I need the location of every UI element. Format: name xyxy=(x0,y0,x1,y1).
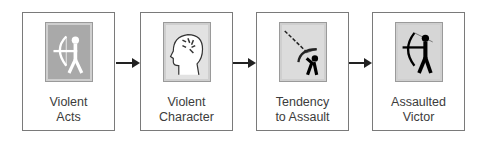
arrow-3 xyxy=(349,62,370,64)
arrow-1 xyxy=(116,62,138,64)
flow-diagram: Violent Acts Violent Character xyxy=(0,0,485,142)
node-tendency-to-assault: Tendency to Assault xyxy=(256,12,349,131)
node-label: Assaulted Victor xyxy=(373,95,464,125)
label-line: Character xyxy=(141,110,232,125)
label-line: Acts xyxy=(23,110,114,125)
label-line: Victor xyxy=(373,110,464,125)
head-profile-icon xyxy=(164,23,210,81)
node-label: Tendency to Assault xyxy=(257,95,348,125)
node-violent-character: Violent Character xyxy=(140,12,233,131)
label-line: Assaulted xyxy=(373,95,464,110)
arrow-2 xyxy=(233,62,254,64)
label-line: Violent xyxy=(23,95,114,110)
archer-aiming-icon xyxy=(280,23,326,81)
archer-white-icon xyxy=(46,23,92,81)
label-line: Tendency xyxy=(257,95,348,110)
label-line: Violent xyxy=(141,95,232,110)
archer-black-icon xyxy=(396,23,442,81)
node-label: Violent Character xyxy=(141,95,232,125)
label-line: to Assault xyxy=(257,110,348,125)
node-violent-acts: Violent Acts xyxy=(22,12,115,131)
node-label: Violent Acts xyxy=(23,95,114,125)
node-assaulted-victor: Assaulted Victor xyxy=(372,12,465,131)
